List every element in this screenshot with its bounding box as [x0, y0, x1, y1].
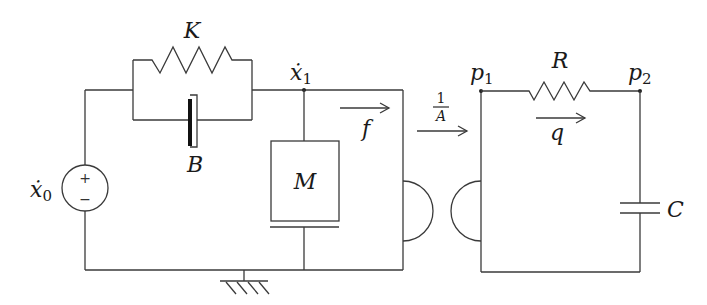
ground-icon: [220, 270, 269, 294]
flow-q-label: q: [550, 120, 564, 145]
transformer-coil-left-icon: [403, 181, 433, 241]
spring-label: K: [183, 18, 202, 43]
node-x1-label: ẋ1: [290, 60, 312, 88]
ratio-denominator: A: [434, 108, 446, 124]
capacitor-label: C: [667, 197, 684, 222]
transformer-coil-right-icon: [451, 181, 481, 241]
damper-label: B: [186, 152, 203, 177]
transformer-arrow-icon: [417, 126, 467, 136]
source-plus-sign: +: [79, 170, 91, 186]
spring-icon: [133, 47, 252, 73]
transformer: 1 A: [403, 90, 481, 241]
hydraulic-circuit: p1 R p2 q C: [470, 48, 684, 272]
flow-f-label: f: [360, 116, 374, 141]
node-p1-label: p1: [470, 60, 494, 88]
source-label: ẋ0: [30, 177, 52, 205]
ratio-numerator: 1: [437, 90, 446, 106]
damper-icon: [190, 95, 197, 147]
resistor-icon: [481, 82, 640, 100]
mechanical-circuit: + − ẋ0 K B ẋ1 M: [30, 18, 403, 294]
resistor-label: R: [551, 48, 569, 73]
velocity-source: + −: [62, 165, 108, 211]
node-p2-label: p2: [628, 60, 652, 88]
flow-f-arrow-icon: [340, 103, 389, 113]
circuit-diagram: + − ẋ0 K B ẋ1 M: [0, 0, 707, 305]
capacitor-icon: [620, 203, 660, 213]
source-minus-sign: −: [79, 191, 91, 207]
mass-label: M: [293, 169, 317, 194]
